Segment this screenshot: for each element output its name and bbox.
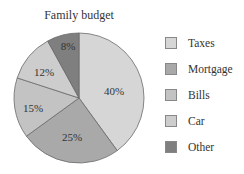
slice-label-car: 12%: [34, 66, 54, 78]
legend-label: Car: [188, 115, 205, 127]
slice-label-other: 8%: [61, 40, 76, 52]
legend-label: Other: [188, 141, 214, 153]
legend-item-mortgage: Mortgage: [165, 56, 233, 82]
legend-item-car: Car: [165, 108, 233, 134]
legend-swatch: [165, 115, 177, 127]
legend-swatch: [165, 89, 177, 101]
legend-item-taxes: Taxes: [165, 30, 233, 56]
legend-item-bills: Bills: [165, 82, 233, 108]
slice-label-bills: 15%: [23, 102, 43, 114]
legend-label: Bills: [188, 89, 210, 101]
legend-swatch: [165, 37, 177, 49]
legend-item-other: Other: [165, 134, 233, 160]
slice-label-taxes: 40%: [104, 85, 124, 97]
slice-label-mortgage: 25%: [62, 131, 82, 143]
legend-swatch: [165, 141, 177, 153]
legend-swatch: [165, 63, 177, 75]
legend-label: Mortgage: [188, 63, 233, 75]
legend-label: Taxes: [188, 37, 215, 49]
pie-chart: 40% 25% 15% 12% 8%: [0, 0, 160, 174]
legend: Taxes Mortgage Bills Car Other: [165, 30, 233, 160]
